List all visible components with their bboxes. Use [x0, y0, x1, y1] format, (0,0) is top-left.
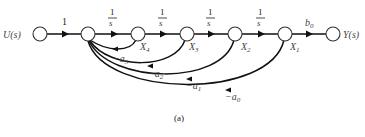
- label-a0: −a0: [225, 91, 241, 104]
- figure-caption: (a): [174, 113, 184, 123]
- signal-flow-graph: U(s) Y(s) 1 1 s 1 s 1 s 1 s b0 X4 X3 X2 …: [0, 0, 365, 137]
- svg-text:1: 1: [208, 7, 213, 17]
- node-x1: [278, 27, 292, 41]
- node-x4: [131, 27, 145, 41]
- svg-text:1: 1: [160, 7, 165, 17]
- integrator-1: 1 s: [108, 7, 117, 28]
- label-x3: X3: [188, 41, 199, 54]
- loop-a2: [90, 40, 185, 63]
- svg-text:1: 1: [258, 7, 263, 17]
- label-x2: X2: [240, 41, 251, 54]
- label-x4: X4: [139, 41, 150, 54]
- label-a1: −a1: [186, 80, 201, 93]
- svg-text:s: s: [207, 18, 211, 28]
- gain-b0: b0: [305, 17, 314, 30]
- integrator-2: 1 s: [158, 7, 167, 28]
- node-sum: [81, 27, 95, 41]
- node-x2: [228, 27, 242, 41]
- svg-text:1: 1: [110, 7, 115, 17]
- output-label: Y(s): [343, 29, 360, 41]
- node-y: [326, 27, 340, 41]
- node-u: [33, 27, 47, 41]
- integrator-gains: 1 s 1 s 1 s 1 s: [108, 7, 265, 28]
- label-a2: −a2: [148, 68, 164, 81]
- integrator-4: 1 s: [256, 7, 265, 28]
- svg-text:s: s: [159, 18, 163, 28]
- svg-text:s: s: [257, 18, 261, 28]
- node-x3: [180, 27, 194, 41]
- gain-u-to-e: 1: [62, 16, 67, 27]
- input-label: U(s): [3, 29, 21, 41]
- label-x1: X1: [289, 41, 300, 54]
- svg-text:s: s: [109, 18, 113, 28]
- integrator-3: 1 s: [206, 7, 215, 28]
